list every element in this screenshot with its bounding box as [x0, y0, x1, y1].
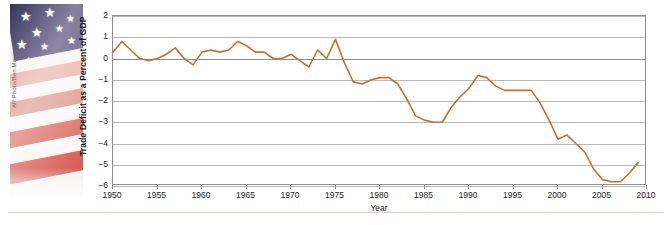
series-line-trade-deficit: [113, 16, 647, 186]
x-axis-tick-label: 2000: [548, 190, 567, 200]
chart-container: Trade Deficit as a Percent of GDP 210−1−…: [86, 4, 664, 216]
flag-star-icon: ★: [20, 10, 32, 23]
x-axis-tick-label: 1950: [103, 190, 122, 200]
x-axis-tick-label: 1955: [147, 190, 166, 200]
flag-star-icon: ★: [31, 26, 43, 39]
plot-wrapper: 210−1−2−3−4−5−6 195019551960196519701975…: [112, 15, 646, 185]
flag-star-icon: ★: [40, 42, 49, 52]
x-axis-tick-label: 1960: [192, 190, 211, 200]
x-axis-tick-mark: [557, 185, 558, 189]
x-axis-tick-label: 1995: [503, 190, 522, 200]
x-axis-tick-label: 2010: [637, 190, 656, 200]
x-axis-tick-label: 1975: [325, 190, 344, 200]
flag-star-icon: ★: [44, 6, 56, 19]
y-axis-tick-label: −3: [98, 116, 108, 126]
y-axis-tick-label: −5: [98, 159, 108, 169]
x-axis-tick-mark: [201, 185, 202, 189]
flag-star-icon: ★: [16, 38, 28, 51]
y-axis-tick-label: −1: [98, 74, 108, 84]
y-axis-tick-label: −4: [98, 138, 108, 148]
y-axis-tick-label: −6: [98, 180, 108, 190]
y-axis-tick-label: −2: [98, 95, 108, 105]
x-axis-tick-mark: [646, 185, 647, 189]
x-axis-tick-mark: [424, 185, 425, 189]
x-axis-tick-label: 1980: [370, 190, 389, 200]
x-axis-tick-label: 1990: [459, 190, 478, 200]
x-axis-tick-label: 1965: [236, 190, 255, 200]
plot-area: [112, 15, 646, 185]
x-axis-tick-mark: [379, 185, 380, 189]
x-axis-tick-mark: [246, 185, 247, 189]
x-axis-tick-label: 2005: [592, 190, 611, 200]
y-axis-tick-label: 2: [103, 10, 108, 20]
x-axis-tick-label: 1970: [281, 190, 300, 200]
photo-credit: AP Photo/Ben Margot: [11, 48, 17, 108]
x-axis-tick-label: 1985: [414, 190, 433, 200]
x-axis-tick-mark: [157, 185, 158, 189]
chart-figure: ★ ★ ★ ★ ★ ★ ★ ★ ★ AP Photo/Ben Margot Tr…: [0, 0, 672, 225]
y-axis-tick-label: 0: [103, 53, 108, 63]
x-axis-tick-mark: [468, 185, 469, 189]
figure-bottom-rule: [8, 212, 664, 213]
x-axis-tick-mark: [335, 185, 336, 189]
x-axis-tick-mark: [602, 185, 603, 189]
x-axis-tick-mark: [112, 185, 113, 189]
y-axis-title: Trade Deficit as a Percent of GDP: [78, 16, 88, 156]
flag-star-icon: ★: [55, 24, 64, 34]
flag-star-icon: ★: [66, 14, 75, 24]
x-axis-tick-mark: [513, 185, 514, 189]
flag-bottom-fade: [10, 168, 83, 202]
y-axis-tick-label: 1: [103, 31, 108, 41]
american-flag-image: ★ ★ ★ ★ ★ ★ ★ ★ ★: [10, 4, 83, 202]
x-axis-tick-mark: [290, 185, 291, 189]
flag-photo-panel: ★ ★ ★ ★ ★ ★ ★ ★ ★ AP Photo/Ben Margot: [10, 4, 83, 202]
flag-star-icon: ★: [67, 36, 76, 46]
